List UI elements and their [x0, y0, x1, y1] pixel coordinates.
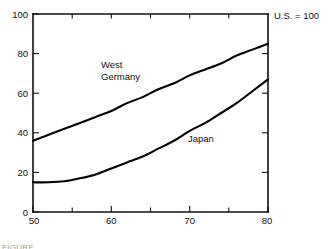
- right-axis-ticks: [262, 54, 268, 173]
- x-axis-ticks: [33, 206, 268, 212]
- series-label-west-germany-line2: Germany: [101, 71, 140, 82]
- series-line-japan: [33, 79, 268, 182]
- series-lines: [33, 44, 268, 183]
- y-tick-label-100: 100: [12, 9, 28, 20]
- y-tick-label-0: 0: [23, 207, 28, 218]
- index-note-label: U.S. = 100: [274, 10, 319, 21]
- y-tick-label-60: 60: [17, 88, 28, 99]
- x-tick-labels: 50 60 70 80: [29, 215, 273, 226]
- line-chart: 0 20 40 60 80 100 50 60 70 80 West Germa…: [0, 0, 331, 249]
- series-label-west-germany-line1: West: [101, 59, 123, 70]
- y-tick-label-20: 20: [17, 167, 28, 178]
- y-tick-label-80: 80: [17, 48, 28, 59]
- x-tick-label-80: 80: [262, 215, 273, 226]
- figure-caption-fragment: FIGURE: [2, 243, 72, 249]
- series-label-japan: Japan: [188, 133, 214, 144]
- y-tick-label-40: 40: [17, 127, 28, 138]
- chart-figure: 0 20 40 60 80 100 50 60 70 80 West Germa…: [0, 0, 331, 249]
- x-tick-label-70: 70: [184, 215, 195, 226]
- x-tick-label-50: 50: [29, 215, 40, 226]
- series-line-west-germany: [33, 44, 268, 141]
- plot-frame: [33, 14, 268, 212]
- y-tick-labels: 0 20 40 60 80 100: [12, 9, 28, 218]
- x-tick-label-60: 60: [106, 215, 117, 226]
